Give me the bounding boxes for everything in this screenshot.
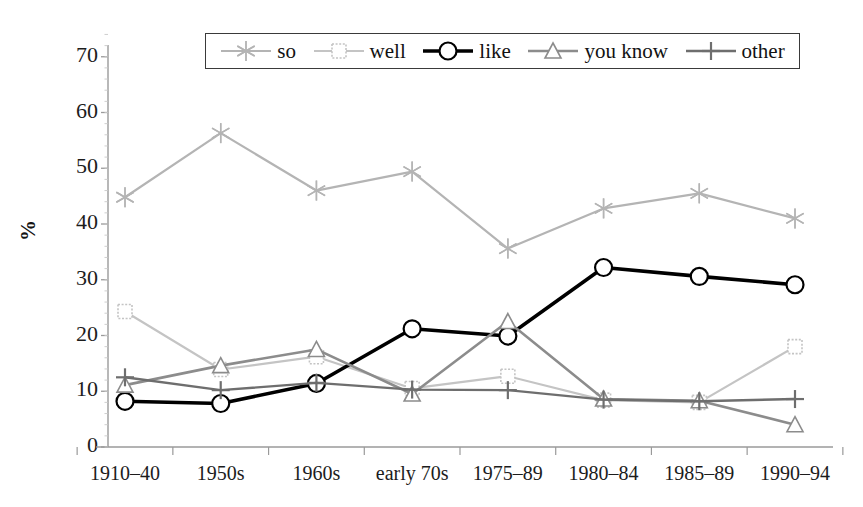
legend-marker-circle-icon — [422, 41, 474, 61]
legend-item-you-know[interactable]: you know — [527, 41, 667, 62]
data-point-circle — [499, 328, 516, 345]
line-chart: % 706050403020100 1910–401950s1960searly… — [0, 0, 863, 507]
data-point-square — [501, 369, 515, 383]
legend-label: you know — [584, 41, 667, 62]
legend-key-glyph — [527, 41, 579, 61]
legend-item-well[interactable]: well — [313, 41, 406, 62]
plot-area — [0, 0, 863, 507]
legend-item-so[interactable]: so — [220, 41, 296, 62]
data-point-circle — [595, 259, 612, 276]
legend-label: well — [370, 41, 406, 62]
data-point-circle — [404, 320, 421, 337]
legend-key-glyph — [685, 41, 737, 61]
data-point-circle — [117, 393, 134, 410]
data-point-circle — [691, 268, 708, 285]
data-point-square — [332, 44, 346, 58]
legend-label: other — [742, 41, 785, 62]
data-point-triangle — [500, 314, 516, 329]
data-point-circle — [787, 276, 804, 293]
data-point-circle — [440, 43, 457, 60]
legend-key-glyph — [313, 41, 365, 61]
legend-item-other[interactable]: other — [685, 41, 785, 62]
legend-marker-triangle-icon — [527, 41, 579, 61]
legend-item-like[interactable]: like — [422, 41, 511, 62]
legend-key-glyph — [220, 41, 272, 61]
data-point-square — [118, 305, 132, 319]
legend-label: so — [277, 41, 296, 62]
legend-label: like — [479, 41, 511, 62]
chart-legend: sowelllikeyou knowother — [205, 33, 800, 69]
legend-marker-square-icon — [313, 41, 365, 61]
legend-key-glyph — [422, 41, 474, 61]
legend-marker-plus-icon — [685, 41, 737, 61]
data-point-square — [788, 340, 802, 354]
series-so — [116, 123, 803, 258]
legend-marker-asterisk-icon — [220, 41, 272, 61]
